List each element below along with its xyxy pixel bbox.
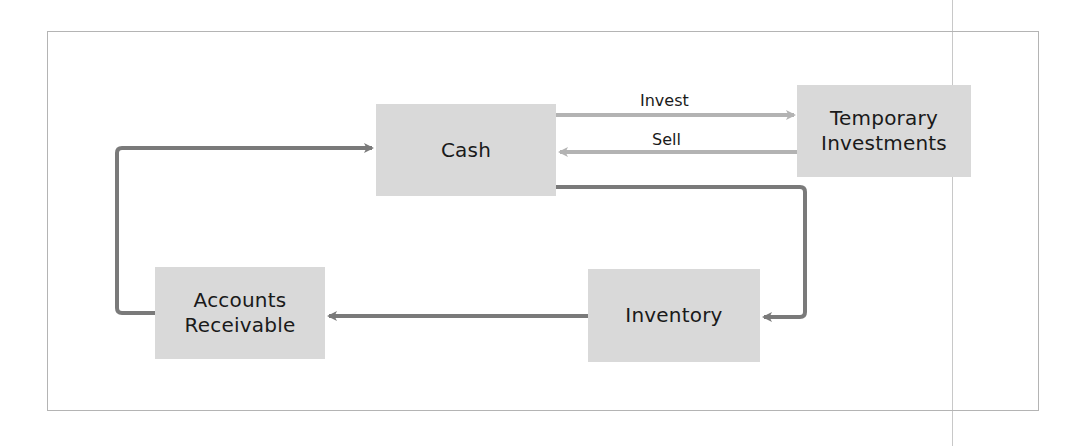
arrows-layer [0, 0, 1073, 446]
cash-label: Cash [441, 138, 491, 163]
inventory-node: Inventory [588, 269, 760, 362]
sell-label: Sell [652, 131, 681, 149]
inventory-label: Inventory [625, 303, 722, 328]
accounts-receivable-label-line1: Accounts [194, 288, 287, 313]
temporary-investments-node: Temporary Investments [797, 85, 971, 177]
accounts-receivable-node: Accounts Receivable [155, 267, 325, 359]
accounts-receivable-label-line2: Receivable [185, 313, 296, 338]
temporary-investments-label-line2: Investments [821, 131, 947, 156]
temporary-investments-label-line1: Temporary [830, 106, 938, 131]
invest-label: Invest [640, 92, 689, 110]
cash-node: Cash [376, 104, 556, 196]
